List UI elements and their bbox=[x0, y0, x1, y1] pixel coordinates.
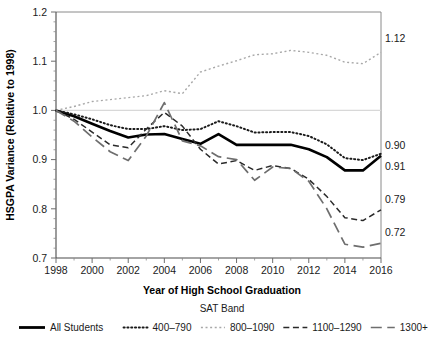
series-line-1100-1290 bbox=[56, 110, 381, 220]
y-tick-label: 1.2 bbox=[32, 6, 47, 18]
legend-label: 400–790 bbox=[153, 322, 192, 333]
legend-item-1300+[interactable]: 1300+ bbox=[371, 322, 428, 333]
series-line-800-1090 bbox=[56, 50, 381, 110]
y-tick-labels: 0.70.80.91.01.11.2 bbox=[32, 6, 47, 264]
chart-container: HSGPA Variance (Relative to 1998) 0.70.8… bbox=[0, 0, 445, 344]
x-tick-label: 2010 bbox=[261, 264, 285, 276]
x-tick-label: 1998 bbox=[44, 264, 68, 276]
x-tick-label: 2000 bbox=[80, 264, 104, 276]
legend-label: 1100–1290 bbox=[312, 322, 362, 333]
legend: All Students400–790800–10901100–12901300… bbox=[19, 322, 428, 333]
legend-title: SAT Band bbox=[200, 303, 245, 314]
end-label-400-790: 0.90 bbox=[385, 139, 406, 151]
x-tick-label: 2012 bbox=[297, 264, 321, 276]
y-tick-label: 1.1 bbox=[32, 55, 47, 67]
series-layer bbox=[56, 50, 381, 247]
y-tick-label: 0.8 bbox=[32, 203, 47, 215]
series-line-all-students bbox=[56, 110, 381, 170]
end-label-800-1090: 1.12 bbox=[385, 32, 406, 44]
legend-label: 1300+ bbox=[400, 322, 428, 333]
x-axis-title: Year of High School Graduation bbox=[143, 284, 301, 296]
x-tick-labels: 1998200020022004200620082010201220142016 bbox=[44, 264, 393, 276]
x-tick-label: 2014 bbox=[333, 264, 357, 276]
y-axis-title: HSGPA Variance (Relative to 1998) bbox=[4, 49, 16, 221]
legend-item-all-students[interactable]: All Students bbox=[19, 322, 103, 333]
y-tick-label: 0.7 bbox=[32, 252, 47, 264]
x-tick-label: 2002 bbox=[117, 264, 141, 276]
x-tick-label: 2004 bbox=[153, 264, 177, 276]
series-end-labels: 0.910.901.120.790.72 bbox=[385, 32, 406, 238]
end-label-1300: 0.72 bbox=[385, 226, 406, 238]
end-label-all-students: 0.91 bbox=[385, 160, 406, 172]
x-tick-label: 2006 bbox=[189, 264, 213, 276]
legend-item-1100-1290[interactable]: 1100–1290 bbox=[283, 322, 362, 333]
x-tick-label: 2016 bbox=[369, 264, 393, 276]
legend-label: 800–1090 bbox=[230, 322, 275, 333]
x-tick-label: 2008 bbox=[225, 264, 249, 276]
legend-label: All Students bbox=[50, 322, 103, 333]
legend-item-400-790[interactable]: 400–790 bbox=[124, 322, 192, 333]
legend-item-800-1090[interactable]: 800–1090 bbox=[201, 322, 275, 333]
hsgpa-variance-line-chart: HSGPA Variance (Relative to 1998) 0.70.8… bbox=[0, 0, 445, 344]
y-tick-label: 1.0 bbox=[32, 104, 47, 116]
y-tick-label: 0.9 bbox=[32, 153, 47, 165]
end-label-1100-1290: 0.79 bbox=[385, 193, 406, 205]
